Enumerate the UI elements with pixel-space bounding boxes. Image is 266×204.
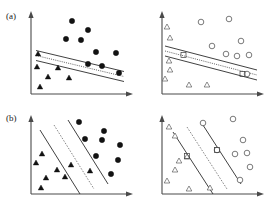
panel-b-left [24,110,136,202]
data-point [164,178,170,183]
x-axis-arrow [257,191,264,196]
data-point [186,82,192,87]
data-point [101,128,106,133]
support-vector-marker [181,53,186,58]
data-point [117,142,122,147]
panel-label-b: (b) [6,114,17,123]
data-point [76,119,81,124]
data-point [69,18,74,23]
y-axis-arrow [28,115,33,122]
data-point [166,58,172,63]
data-point [240,137,246,143]
series-class-triangle [33,151,93,190]
data-point [108,171,113,176]
series-class-triangle [164,124,213,191]
data-point [167,67,173,72]
data-point [39,151,45,156]
data-point [167,35,173,40]
data-point [68,162,74,167]
data-point [34,64,40,69]
y-axis-arrow [159,115,164,122]
data-point [113,50,118,55]
data-point [66,75,72,80]
data-point [99,137,104,142]
data-point [234,53,240,59]
data-point [232,151,238,157]
data-point [162,76,168,81]
data-point [247,164,253,170]
data-point [237,177,243,183]
data-point [198,19,204,25]
decision-center-line [54,125,94,189]
data-point [176,158,182,163]
x-axis-arrow [126,191,133,196]
decision-band [165,46,257,80]
data-point [87,168,93,173]
decision-band [173,122,241,194]
data-point [226,16,232,22]
margin-upper-line [36,51,124,72]
y-axis-arrow [159,11,164,18]
decision-center-line [36,56,124,77]
data-point [244,150,250,156]
data-point [33,160,39,165]
series-class-circle [63,18,121,75]
data-point [55,65,61,70]
data-point [186,186,192,191]
data-point [214,147,220,153]
panel-b-right-plot [155,110,266,202]
data-point [54,167,60,172]
data-point [246,52,252,58]
data-point [93,153,98,158]
panel-a-right-plot [155,8,266,100]
data-point [115,157,120,162]
data-point [37,84,43,89]
series-class-triangle [34,51,72,89]
panel-a-left-plot [24,8,136,100]
panel-b-left-plot [24,110,136,202]
data-point [45,74,51,79]
data-point [85,27,90,32]
panel-label-a: (a) [6,12,16,21]
data-point [166,124,172,129]
y-axis-arrow [28,11,33,18]
data-point [116,70,121,75]
data-point [204,82,210,87]
panel-a-left [24,8,136,100]
data-point [78,37,83,42]
data-point [43,175,49,180]
series-class-circle [198,16,252,77]
data-point [230,116,236,122]
data-point [82,136,87,141]
data-point [209,43,215,49]
data-point [85,61,90,66]
data-point [223,51,229,57]
data-point [200,120,206,126]
x-axis-arrow [126,91,133,96]
data-point [238,38,244,44]
margin-upper-line [165,46,257,70]
data-point [38,185,44,190]
x-axis-arrow [257,91,264,96]
data-point [172,133,178,138]
series-class-circle [200,116,253,183]
support-vectors [185,148,220,159]
panel-a-right [155,8,266,100]
data-point [99,63,104,68]
data-point [164,24,170,29]
data-point [63,36,68,41]
data-point [62,174,68,179]
data-point [172,167,178,172]
panel-b-right [155,110,266,202]
series-class-circle [76,119,122,176]
decision-center-line [187,127,227,189]
margin-lower-line [40,130,80,194]
data-point [93,49,98,54]
svm-margin-figure: (a) (b) [0,0,266,204]
